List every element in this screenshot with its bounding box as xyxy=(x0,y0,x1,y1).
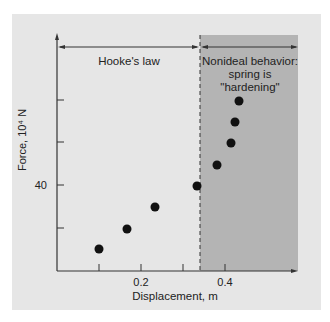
data-point xyxy=(227,139,236,148)
data-point xyxy=(151,203,160,212)
data-point xyxy=(213,161,222,170)
y-tick-label-40: 40 xyxy=(35,179,47,191)
data-point xyxy=(235,97,244,106)
nonideal-label-line3: "hardening" xyxy=(220,81,279,93)
y-axis-arrow-icon xyxy=(55,33,59,40)
nonideal-label-line2: spring is xyxy=(229,68,272,80)
data-point xyxy=(95,245,104,254)
arrowhead-right-icon xyxy=(192,45,199,49)
nonideal-label-line1: Nonideal behavior: xyxy=(202,55,298,67)
x-tick-label-0.2: 0.2 xyxy=(133,276,148,288)
hooke-label: Hooke's law xyxy=(98,55,160,67)
y-axis-label: Force, 10⁴ N xyxy=(16,109,28,171)
data-point xyxy=(193,182,202,191)
x-axis-label: Displacement, m xyxy=(132,290,218,302)
data-point xyxy=(231,118,240,127)
scatter-chart: Hooke's law Nonideal behavior: spring is… xyxy=(0,0,330,322)
arrowhead-left-icon xyxy=(58,45,65,49)
data-point xyxy=(123,225,132,234)
x-tick-label-0.4: 0.4 xyxy=(217,276,232,288)
y-ticks xyxy=(57,100,64,228)
